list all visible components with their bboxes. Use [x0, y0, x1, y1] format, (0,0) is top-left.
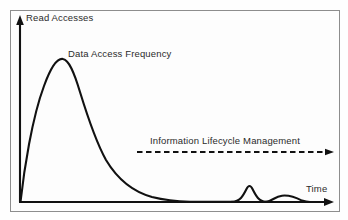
series-label-data-access-frequency: Data Access Frequency — [68, 49, 171, 59]
secondary-access-bump — [232, 186, 266, 202]
figure-container: Read Accesses Data Access Frequency Info… — [0, 0, 348, 220]
y-axis-label: Read Accesses — [26, 13, 93, 23]
y-axis-arrowhead — [16, 15, 24, 25]
x-axis-arrowhead — [324, 198, 334, 206]
chart-canvas — [0, 0, 348, 220]
lifecycle-arrow — [137, 149, 334, 156]
y-axis — [16, 15, 24, 202]
lifecycle-label: Information Lifecycle Management — [150, 136, 300, 146]
access-frequency-curve — [21, 59, 233, 202]
x-axis-label: Time — [306, 184, 327, 194]
lifecycle-arrowhead — [325, 149, 334, 156]
